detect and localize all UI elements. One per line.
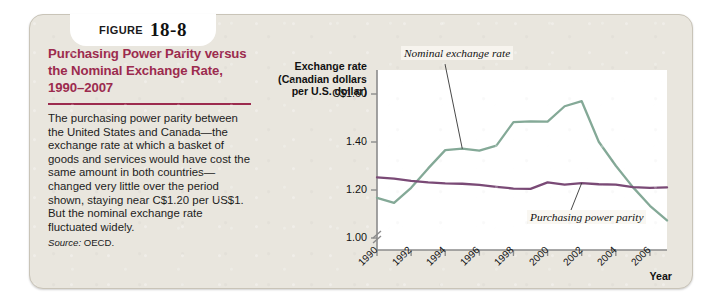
annotation-leader-line (571, 183, 582, 210)
x-axis-title: Year (650, 270, 672, 282)
source-label: Source: (48, 237, 81, 248)
plot-area: C$1.601.401.201.001990199219941996199820… (377, 70, 667, 250)
y-axis-title-line-2: (Canadian dollars (255, 73, 367, 86)
title-divider (48, 103, 251, 105)
figure-title: Purchasing Power Parity versus the Nomin… (48, 45, 252, 96)
figure-text-column: Purchasing Power Parity versus the Nomin… (48, 45, 252, 248)
figure-number: 18-8 (150, 19, 187, 41)
series-label-purchasing-power-parity: Purchasing power parity (527, 210, 646, 224)
annotation-leader-line (445, 64, 462, 149)
series-line-nominal-exchange-rate (377, 101, 667, 220)
y-tick-label: 1.40 (301, 135, 367, 147)
figure-number-tab: FIGURE 18-8 (70, 14, 216, 46)
figure-word: FIGURE (99, 24, 143, 36)
source-value: OECD. (84, 237, 114, 248)
x-tick-label: 1990 (356, 244, 380, 268)
figure-source: Source: OECD. (48, 237, 252, 248)
chart-container: Exchange rate (Canadian dollars per U.S.… (255, 37, 680, 282)
y-tick-label: 1.20 (301, 183, 367, 195)
series-line-purchasing-power-parity (377, 177, 667, 189)
figure-description: The purchasing power parity between the … (48, 112, 252, 234)
figure-card: FIGURE 18-8 Purchasing Power Parity vers… (29, 14, 693, 289)
y-tick-label: C$1.60 (301, 87, 367, 99)
y-tick-label: 1.00 (301, 231, 367, 243)
series-label-nominal-exchange-rate: Nominal exchange rate (401, 46, 513, 60)
y-axis-title-line-1: Exchange rate (255, 60, 367, 73)
